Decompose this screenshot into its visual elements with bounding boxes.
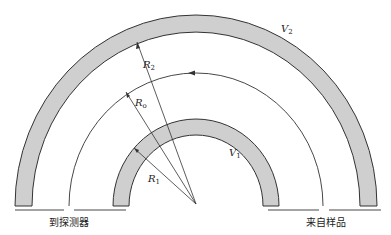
exit-label: 到探测器: [49, 216, 89, 228]
label-V2: V2: [281, 23, 293, 36]
outer-hemisphere-electrode: [15, 15, 377, 206]
radius-R1-line: [134, 148, 196, 204]
entrance-label: 来自样品: [306, 216, 346, 228]
label-R1: R1: [147, 173, 160, 186]
label-R2: R2: [142, 59, 155, 72]
inner-hemisphere-electrode: [113, 119, 279, 206]
analyzer-diagram: R2 Ro R1 V2 V1 到探测器 来自样品: [0, 0, 391, 235]
central-trajectory: [69, 73, 323, 206]
trajectory-arrow-icon: [188, 71, 195, 76]
